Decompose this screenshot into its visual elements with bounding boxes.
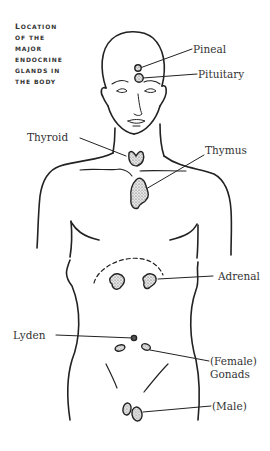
left-shoulder (37, 153, 113, 248)
neck-left (113, 128, 115, 153)
right-eyebrow (144, 81, 160, 84)
thyroid-gland (129, 152, 144, 166)
label-pituitary: Pituitary (198, 68, 244, 80)
head-outline (102, 32, 164, 88)
torso-right (191, 262, 200, 420)
right-inner-arm (197, 225, 198, 258)
male-gonad-leader (143, 406, 211, 412)
pituitary-gland (135, 74, 143, 82)
label-gonads: Gonads (210, 368, 250, 380)
female-gonad-leader (150, 350, 209, 361)
pituitary-leader (143, 74, 197, 78)
nose (134, 94, 142, 116)
left-eyebrow (112, 81, 128, 84)
thyroid-leader (80, 138, 126, 156)
groin-left (106, 364, 117, 388)
label-lyden: Lyden (13, 329, 45, 341)
left-pectoral (71, 222, 99, 240)
adrenal-leader (158, 276, 213, 279)
pineal-gland (135, 65, 141, 71)
right-pectoral (170, 224, 197, 240)
jaw-right (134, 106, 160, 134)
left-eye (117, 89, 127, 93)
pineal-leader (140, 49, 192, 68)
torso-left (67, 260, 79, 420)
label-male: (Male) (212, 400, 247, 412)
label-pineal: Pineal (193, 43, 226, 55)
right-eye (145, 89, 156, 93)
female-gonad-right (141, 343, 152, 352)
male-gonad-right (131, 406, 143, 422)
groin-right (144, 364, 168, 392)
lyden-leader (56, 335, 133, 338)
female-gonad-left (114, 344, 125, 352)
thymus-gland (131, 178, 149, 208)
right-ear (160, 86, 166, 106)
label-thymus: Thymus (205, 144, 247, 156)
lyden-gland (131, 335, 136, 340)
left-ear (101, 88, 108, 106)
neck-right (160, 124, 164, 156)
mouth (128, 120, 145, 124)
left-inner-arm (70, 221, 72, 257)
left-clavicle (80, 169, 132, 176)
label-thyroid: Thyroid (27, 131, 68, 143)
adrenal-gland-left (110, 274, 125, 289)
label-female: (Female) (210, 355, 257, 367)
male-gonad-left (122, 402, 132, 415)
label-adrenal: Adrenal (218, 270, 260, 282)
thymus-leader (146, 155, 204, 189)
adrenal-gland-right (143, 274, 156, 289)
